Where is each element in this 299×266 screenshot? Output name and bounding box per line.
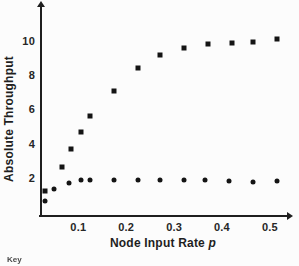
data-point-filled-square (157, 52, 162, 57)
data-point-filled-square (251, 39, 256, 44)
x-tick-label: 0.4 (214, 221, 230, 233)
data-point-filled-circle (78, 178, 83, 183)
data-point-filled-circle (251, 180, 256, 185)
data-point-filled-square (205, 42, 210, 47)
y-tick-label: 4 (8, 138, 35, 150)
y-axis-line (40, 6, 42, 217)
x-axis-title-text: Node Input Rate (110, 236, 205, 250)
data-point-filled-circle (227, 179, 232, 184)
data-point-filled-circle (203, 177, 208, 182)
x-tick-label: 0.5 (262, 221, 278, 233)
y-tick-label: 6 (8, 103, 35, 115)
data-point-filled-circle (157, 178, 162, 183)
data-point-filled-circle (52, 186, 57, 191)
y-tick-label: 10 (8, 35, 35, 47)
data-point-filled-circle (42, 198, 47, 203)
y-tick-label: 2 (8, 172, 35, 184)
data-point-filled-square (59, 164, 64, 169)
data-point-filled-circle (88, 177, 93, 182)
key-caption: Key (7, 255, 22, 264)
y-tick-label: 8 (8, 69, 35, 81)
data-point-filled-circle (136, 177, 141, 182)
throughput-scatter-figure: Absolute Throughput Node Input Rate p 24… (0, 0, 299, 266)
data-point-filled-circle (66, 180, 71, 185)
data-point-filled-square (69, 146, 74, 151)
data-point-filled-square (112, 88, 117, 93)
x-tick-label: 0.1 (70, 221, 86, 233)
data-point-filled-circle (275, 179, 280, 184)
data-point-filled-circle (181, 178, 186, 183)
x-axis-title-variable: p (209, 236, 217, 250)
y-axis-arrow-icon (37, 1, 45, 7)
data-point-filled-circle (112, 177, 117, 182)
data-point-filled-square (42, 189, 47, 194)
x-axis-title: Node Input Rate p (110, 236, 216, 250)
data-point-filled-square (136, 66, 141, 71)
data-point-filled-square (78, 129, 83, 134)
x-tick-label: 0.2 (118, 221, 134, 233)
data-point-filled-square (229, 40, 234, 45)
x-axis-arrow-icon (287, 212, 293, 220)
x-axis-line (39, 215, 288, 217)
data-point-filled-square (275, 37, 280, 42)
x-tick-label: 0.3 (166, 221, 182, 233)
data-point-filled-square (181, 45, 186, 50)
data-point-filled-square (88, 114, 93, 119)
